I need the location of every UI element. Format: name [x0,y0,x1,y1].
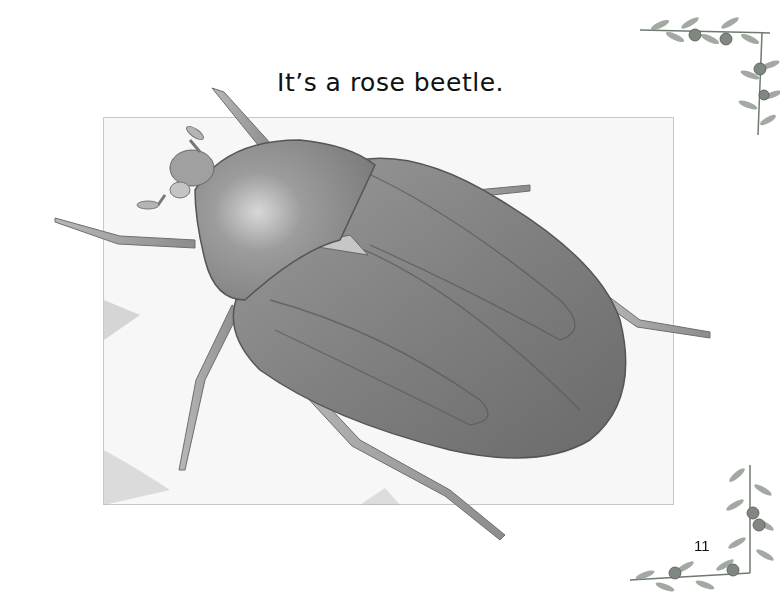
evergreen-branch-corner-bottom-right [625,455,781,603]
page-number: 11 [694,537,710,554]
evergreen-branch-corner-top-right [630,5,780,140]
